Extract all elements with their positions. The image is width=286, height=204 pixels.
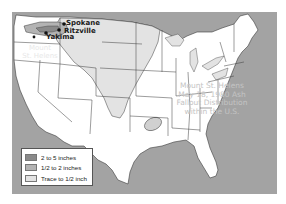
- legend-swatch-heavy: [25, 154, 37, 161]
- volcano-label-line: Mount: [18, 44, 62, 52]
- city-label-spokane: Spokane: [66, 19, 100, 27]
- legend-swatch-trace: [25, 175, 37, 182]
- city-label-yakima: Yakima: [46, 33, 74, 41]
- legend-item: 1/2 to 2 inches: [25, 163, 89, 174]
- legend-label: Trace to 1/2 inch: [41, 175, 87, 182]
- legend-item: 2 to 5 inches: [25, 152, 89, 163]
- ritzville-dot: [57, 28, 61, 32]
- map-legend: 2 to 5 inches 1/2 to 2 inches Trace to 1…: [21, 148, 93, 186]
- mount-st-helens-dot: [33, 36, 36, 39]
- legend-label: 2 to 5 inches: [41, 154, 76, 161]
- title-line: within the U.S.: [164, 108, 260, 117]
- map-title: Mount St. Helens May 18, 1980 Ash Fallou…: [164, 82, 260, 116]
- volcano-label: Mount St. Helens: [18, 44, 62, 60]
- volcano-label-line: St. Helens: [18, 52, 62, 60]
- legend-label: 1/2 to 2 inches: [41, 164, 81, 171]
- legend-item: Trace to 1/2 inch: [25, 173, 89, 184]
- legend-swatch-medium: [25, 164, 37, 171]
